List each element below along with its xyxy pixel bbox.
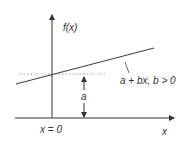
origin-label: x = 0 xyxy=(39,124,62,135)
intercept-label: a xyxy=(81,91,87,102)
function-label: a + bx, b > 0 xyxy=(120,75,176,86)
y-axis-label: f(x) xyxy=(63,22,77,33)
linear-function-diagram: f(x) a a + bx, b > 0 x = 0 x xyxy=(0,0,191,147)
x-axis-label: x xyxy=(161,126,168,137)
label-leader-line xyxy=(125,62,129,73)
